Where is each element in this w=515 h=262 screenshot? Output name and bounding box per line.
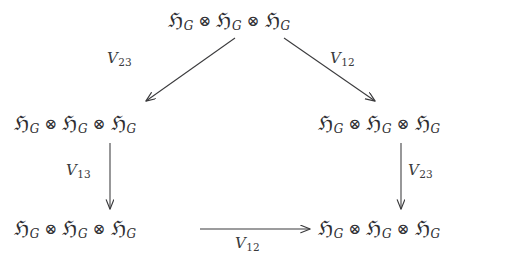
subscript-g: G	[30, 122, 40, 136]
tensor-icon: ⊗	[247, 12, 260, 30]
subscript-g: G	[382, 227, 392, 241]
tensor-icon: ⊗	[198, 12, 211, 30]
subscript-g: G	[78, 227, 88, 241]
subscript-g: G	[334, 122, 344, 136]
tensor-icon: ⊗	[397, 115, 410, 133]
frak-h-icon: ℌ	[62, 216, 77, 240]
arrow-label-horizontal: V12	[235, 236, 260, 253]
frak-h-icon: ℌ	[366, 216, 381, 240]
frak-h-icon: ℌ	[415, 216, 430, 240]
frak-h-icon: ℌ	[216, 8, 231, 32]
node-top: ℌG⊗ℌG⊗ℌG	[168, 10, 290, 32]
subscript-g: G	[382, 122, 392, 136]
label-letter: V	[235, 234, 246, 252]
label-subscript: 23	[118, 56, 131, 68]
label-subscript: 12	[341, 56, 354, 68]
frak-h-icon: ℌ	[366, 111, 381, 135]
frak-h-icon: ℌ	[62, 111, 77, 135]
frak-h-icon: ℌ	[318, 216, 333, 240]
commutative-diagram: ℌG⊗ℌG⊗ℌG ℌG⊗ℌG⊗ℌG ℌG⊗ℌG⊗ℌG ℌG⊗ℌG⊗ℌG ℌG⊗ℌ…	[0, 0, 515, 262]
subscript-g: G	[184, 19, 194, 33]
frak-h-icon: ℌ	[265, 8, 280, 32]
arrow-diag-left	[146, 38, 235, 101]
arrow-label-diag-left: V23	[107, 51, 132, 68]
arrow-label-vert-left: V13	[66, 163, 91, 180]
frak-h-icon: ℌ	[168, 8, 183, 32]
frak-h-icon: ℌ	[111, 111, 126, 135]
label-letter: V	[408, 161, 419, 179]
subscript-g: G	[430, 122, 440, 136]
arrow-label-vert-right: V23	[408, 163, 433, 180]
subscript-g: G	[78, 122, 88, 136]
label-letter: V	[66, 161, 77, 179]
subscript-g: G	[126, 122, 136, 136]
tensor-icon: ⊗	[348, 115, 361, 133]
arrow-label-diag-right: V12	[330, 51, 355, 68]
arrow-diag-right	[284, 38, 375, 101]
tensor-icon: ⊗	[348, 220, 361, 238]
tensor-icon: ⊗	[93, 115, 106, 133]
node-bottom-right: ℌG⊗ℌG⊗ℌG	[318, 218, 440, 240]
tensor-icon: ⊗	[397, 220, 410, 238]
label-subscript: 23	[419, 168, 432, 180]
tensor-icon: ⊗	[93, 220, 106, 238]
subscript-g: G	[280, 19, 290, 33]
node-bottom-left: ℌG⊗ℌG⊗ℌG	[14, 218, 136, 240]
frak-h-icon: ℌ	[111, 216, 126, 240]
subscript-g: G	[232, 19, 242, 33]
frak-h-icon: ℌ	[415, 111, 430, 135]
frak-h-icon: ℌ	[14, 111, 29, 135]
subscript-g: G	[334, 227, 344, 241]
tensor-icon: ⊗	[44, 115, 57, 133]
frak-h-icon: ℌ	[14, 216, 29, 240]
tensor-icon: ⊗	[44, 220, 57, 238]
label-letter: V	[107, 49, 118, 67]
label-subscript: 12	[246, 241, 259, 253]
frak-h-icon: ℌ	[318, 111, 333, 135]
subscript-g: G	[30, 227, 40, 241]
node-middle-left: ℌG⊗ℌG⊗ℌG	[14, 113, 136, 135]
subscript-g: G	[430, 227, 440, 241]
subscript-g: G	[126, 227, 136, 241]
label-letter: V	[330, 49, 341, 67]
node-middle-right: ℌG⊗ℌG⊗ℌG	[318, 113, 440, 135]
label-subscript: 13	[77, 168, 90, 180]
